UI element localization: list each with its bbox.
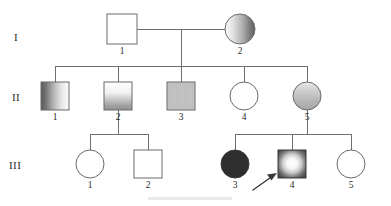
proband-arrow-icon xyxy=(253,173,277,190)
male-square-III-4-proband[interactable] xyxy=(278,150,306,178)
individual-II-3[interactable]: 3 xyxy=(167,82,195,122)
individual-II-5[interactable]: 5 xyxy=(293,82,321,122)
male-square-II-3[interactable] xyxy=(167,82,195,110)
individual-III-1[interactable]: 1 xyxy=(76,150,104,190)
generation-II-symbols: 1 2 3 4 5 xyxy=(41,82,321,122)
individual-II-1[interactable]: 1 xyxy=(41,82,69,122)
individual-II-4[interactable]: 4 xyxy=(230,82,258,122)
id-label-II-3: 3 xyxy=(179,112,184,122)
pedigree-diagram: I II III xyxy=(0,0,391,206)
scan-artifact xyxy=(148,197,232,200)
individual-III-4[interactable]: 4 xyxy=(278,150,306,190)
id-label-II-2: 2 xyxy=(116,112,121,122)
generation-labels: I II III xyxy=(9,31,21,171)
id-label-II-1: 1 xyxy=(53,112,58,122)
male-square-II-2[interactable] xyxy=(104,82,132,110)
female-circle-II-4[interactable] xyxy=(230,82,258,110)
individual-III-2[interactable]: 2 xyxy=(134,150,162,190)
id-label-II-5: 5 xyxy=(305,112,310,122)
individual-I-1[interactable]: 1 xyxy=(107,14,137,56)
scan-smudge-bar xyxy=(148,197,232,200)
generation-label-III: III xyxy=(9,159,21,171)
generation-label-II: II xyxy=(12,91,20,103)
id-label-III-5: 5 xyxy=(349,180,354,190)
generation-label-I: I xyxy=(14,31,18,43)
male-square-III-2[interactable] xyxy=(134,150,162,178)
individual-III-3[interactable]: 3 xyxy=(221,150,249,190)
individual-II-2[interactable]: 2 xyxy=(104,82,132,122)
generation-III-symbols: 1 2 3 4 5 xyxy=(76,150,365,190)
id-label-III-1: 1 xyxy=(88,180,93,190)
male-square-II-1[interactable] xyxy=(41,82,69,110)
female-circle-II-5[interactable] xyxy=(293,82,321,110)
individual-III-5[interactable]: 5 xyxy=(337,150,365,190)
female-circle-I-2[interactable] xyxy=(225,14,255,44)
female-circle-III-1[interactable] xyxy=(76,150,104,178)
id-label-II-4: 4 xyxy=(242,112,247,122)
id-label-I-2: 2 xyxy=(238,46,243,56)
pedigree-canvas: I II III xyxy=(0,0,391,206)
individual-I-2[interactable]: 2 xyxy=(225,14,255,56)
id-label-III-2: 2 xyxy=(146,180,151,190)
female-circle-III-3-affected[interactable] xyxy=(221,150,249,178)
id-label-III-4: 4 xyxy=(290,180,295,190)
id-label-I-1: 1 xyxy=(120,46,125,56)
female-circle-III-5[interactable] xyxy=(337,150,365,178)
id-label-III-3: 3 xyxy=(233,180,238,190)
male-square-I-1[interactable] xyxy=(107,14,137,44)
